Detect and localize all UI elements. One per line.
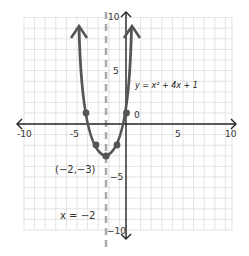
x-tick-neg5: -5 [70,129,79,139]
x-tick-neg10: -10 [17,129,32,139]
x-tick-10: 10 [225,129,237,139]
y-tick-neg5: −5 [110,172,123,182]
y-tick-5: 5 [113,66,119,76]
y-tick-neg10: −10 [107,226,126,236]
parabola-chart: -10 -5 5 10 10 5 0 −5 −10 y = x² + 4x + … [0,0,249,256]
y-tick-10: 10 [108,12,120,22]
symmetry-label: x = −2 [60,210,95,221]
y-tick-0: 0 [134,110,140,120]
vertex-label: (−2,−3) [55,164,96,175]
equation-label: y = x² + 4x + 1 [134,81,198,90]
x-tick-5: 5 [175,129,181,139]
